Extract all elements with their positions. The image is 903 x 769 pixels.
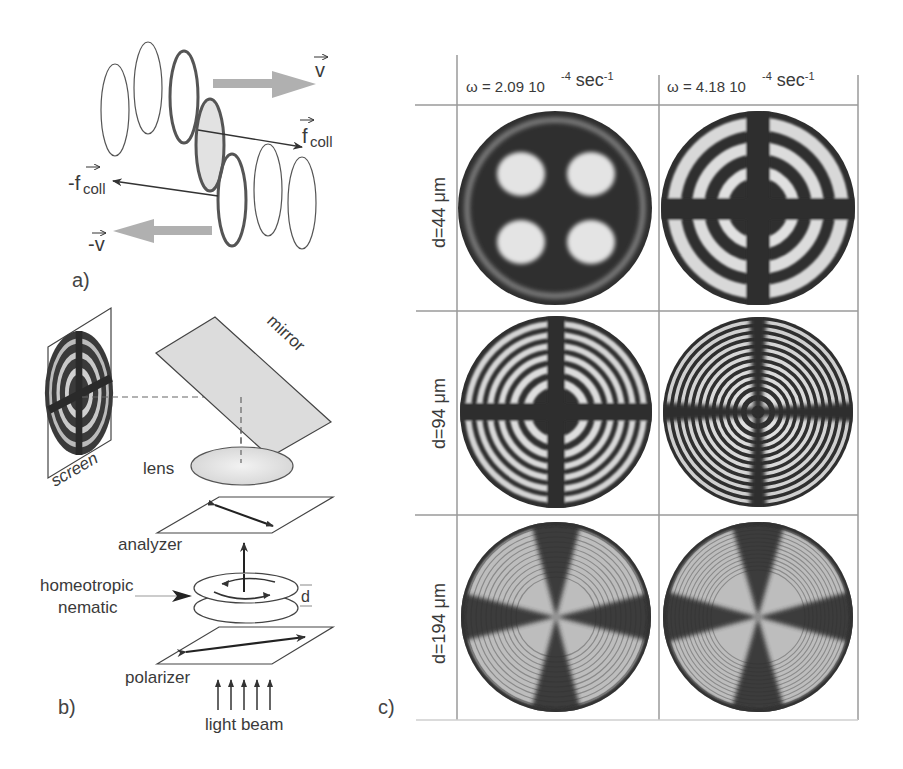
unit: sec [772,70,805,90]
column-header-2: ω = 4.18 10 [667,78,746,95]
nematic-sample: d [194,573,312,623]
mirror: mirror [156,311,331,457]
row-label-d194: d=194 μm [429,583,449,664]
exponent: -1 [604,70,614,82]
svg-text:light beam: light beam [205,715,283,734]
svg-text:polarizer: polarizer [125,668,191,687]
particle-ellipse [254,144,282,236]
svg-text:v: v [315,59,325,81]
screen: screen [45,308,113,490]
particle-ellipse-bold [170,51,198,143]
omega-value: ω = 4.18 10 [667,78,746,95]
label-minus-v: -v [88,233,106,255]
exponent: -4 [762,70,772,82]
particle-ellipse [134,42,162,134]
interference-pattern-d44-w2 [650,100,866,316]
svg-text:f: f [302,125,308,147]
velocity-arrow-right [213,71,316,98]
row-label-d44: d=44 μm [429,177,449,248]
svg-text:coll: coll [83,180,106,197]
sample-label-line2: nematic [58,598,118,617]
label-minus-f-coll: -f coll [68,167,106,197]
interference-pattern-d44-w1 [458,111,652,305]
particle-ellipse [101,64,129,156]
panel-a-label: a) [72,269,90,291]
exponent: -1 [805,70,815,82]
interference-pattern-d94-w2 [656,310,860,514]
interference-pattern-d94-w1 [452,310,660,514]
column-header-1: ω = 2.09 10 [466,78,545,95]
panel-c-label: c) [378,696,395,718]
panel-c-conoscopic-grid: ω = 2.09 10 ω = 4.18 10 d=44 μm d=94 μm … [378,55,866,720]
panel-b-optical-setup: screen mirror lens analyzer [40,308,333,734]
polarizer: polarizer [125,627,333,687]
light-beam-arrows: light beam [205,680,283,734]
unit: sec [571,70,604,90]
analyzer: analyzer [118,497,333,554]
svg-text:mirror: mirror [263,311,309,355]
svg-text:-v: -v [88,233,105,255]
svg-text:analyzer: analyzer [118,535,183,554]
sample-label-line1: homeotropic [40,576,134,595]
panel-b-label: b) [58,696,76,718]
column-header-1-tail: -4 sec-1 [561,70,614,91]
label-f-coll: f coll [300,120,333,150]
svg-text:-f: -f [68,172,81,194]
particle-ellipse-bold [218,154,246,246]
velocity-arrow-left [113,219,212,243]
omega-value: ω = 2.09 10 [466,78,545,95]
exponent: -4 [561,70,571,82]
svg-text:coll: coll [310,133,333,150]
label-v: v [314,57,328,81]
interference-pattern-d194-w2 [661,520,855,714]
lens: lens [143,447,293,485]
row-label-d94: d=94 μm [429,378,449,449]
svg-text:d: d [301,588,310,605]
svg-text:lens: lens [143,459,174,478]
figure-canvas: v f coll -f coll -v a) [0,0,903,769]
interference-pattern-d194-w1 [459,520,653,714]
panel-a-collision-diagram: v f coll -f coll -v a) [68,42,333,291]
particle-ellipse [288,157,316,249]
column-header-2-tail: -4 sec-1 [762,70,815,91]
